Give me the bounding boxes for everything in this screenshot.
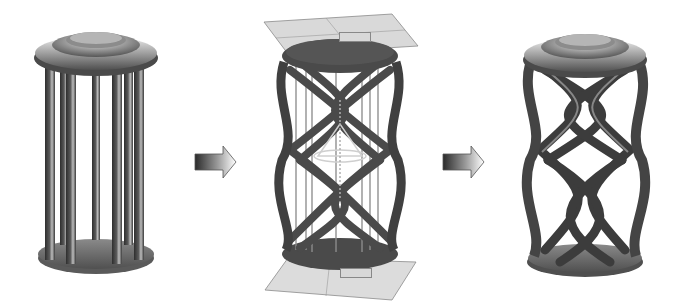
twisted-column-model xyxy=(523,34,647,277)
diagram-canvas xyxy=(0,0,680,305)
gradient-arrow-right-icon xyxy=(195,146,236,178)
bottom-plane-tag xyxy=(340,268,372,278)
twist-setup-model xyxy=(264,14,418,300)
straight-column-model xyxy=(34,32,158,274)
gradient-arrow-right-icon xyxy=(443,146,484,178)
top-plane-tag xyxy=(339,32,371,42)
